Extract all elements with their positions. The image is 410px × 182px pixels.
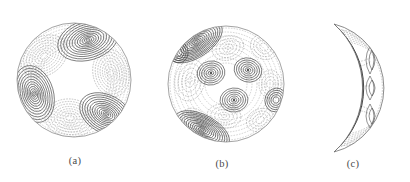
panel-c-caption: (c): [296, 158, 410, 169]
panel-c-contours: [334, 24, 408, 152]
contour-wave-structure: [366, 46, 375, 128]
panel-b: (b): [148, 0, 296, 182]
contour-bands-solid: [366, 26, 408, 150]
contour-figure: (a): [0, 0, 410, 182]
panel-b-contours: [163, 13, 291, 158]
panel-c: (c): [296, 0, 410, 182]
panel-b-svg: [148, 0, 296, 160]
panel-c-svg: [296, 0, 410, 160]
panel-a-svg: [0, 0, 150, 160]
panel-a-plot: [0, 0, 150, 160]
panel-a: (a): [0, 0, 150, 182]
contour-bands-dotted: [336, 28, 395, 148]
panel-b-caption: (b): [148, 158, 296, 169]
panel-c-plot: [296, 0, 410, 160]
panel-a-caption: (a): [0, 155, 150, 166]
panel-b-plot: [148, 0, 296, 160]
contour-lobe-dotted-b: [43, 96, 97, 139]
panel-a-contours: [7, 12, 139, 144]
contour-lobe-solid-ul: [163, 13, 230, 71]
